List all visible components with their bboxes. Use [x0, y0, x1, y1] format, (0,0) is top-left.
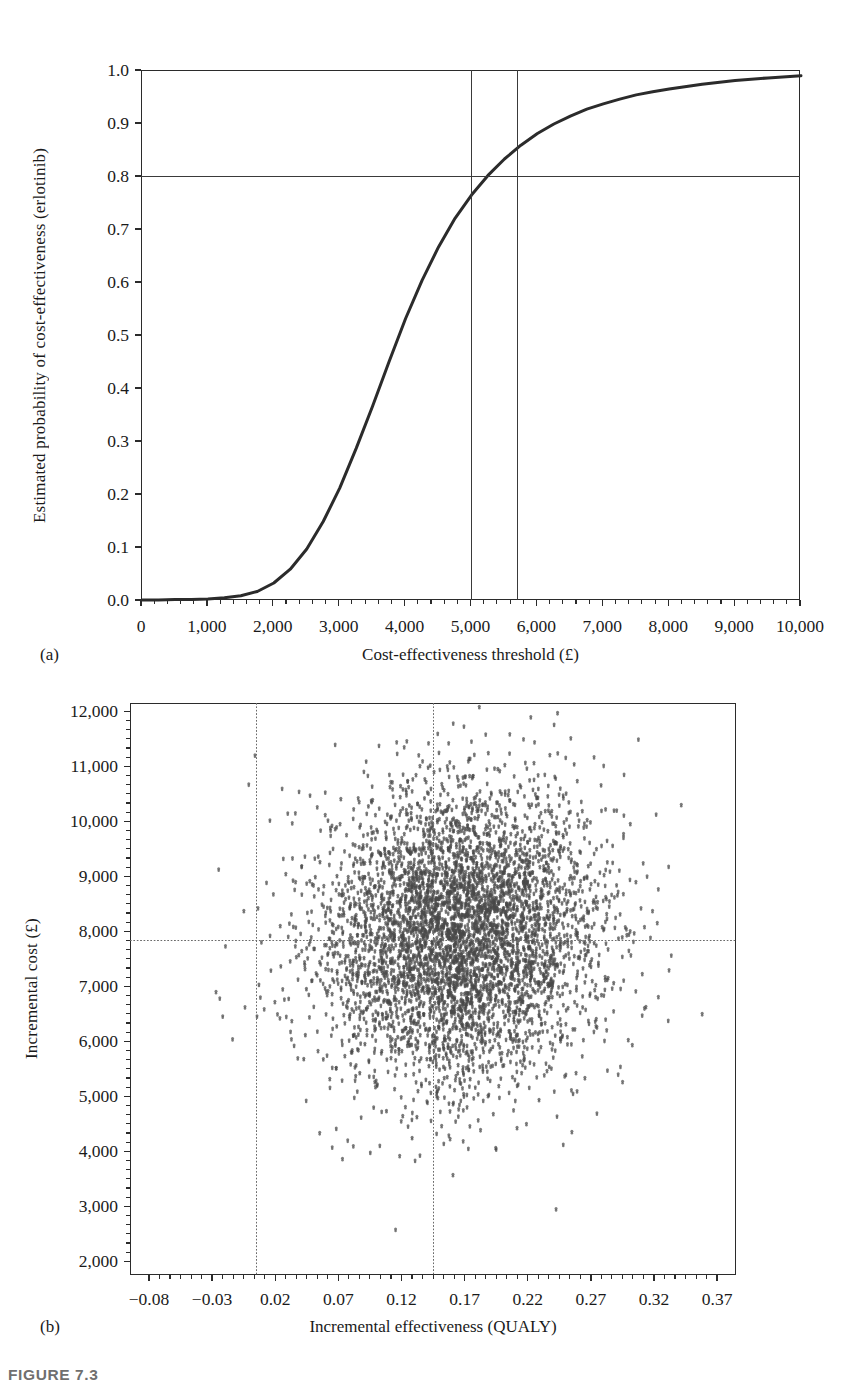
cost-mean-line [130, 940, 736, 941]
panel-b-x-minor-tickmark [317, 1275, 318, 1279]
panel-b-scatter-chart: Incremental cost (£) 2,0003,0004,0005,00… [0, 672, 854, 1332]
panel-a-x-minor-tickmark [496, 600, 497, 604]
panel-b-y-minor-tickmark [126, 1077, 130, 1078]
panel-b-x-minor-tickmark [369, 1275, 370, 1279]
panel-a-x-minor-tickmark [707, 600, 708, 604]
panel-b-x-minor-tickmark [411, 1275, 412, 1279]
panel-b-y-tick: 4,000 [0, 1141, 118, 1162]
panel-b-y-minor-tickmark [126, 1032, 130, 1033]
panel-b-tag: (b) [40, 1317, 60, 1337]
figure-caption: FIGURE 7.3 [8, 1366, 98, 1382]
panel-b-y-tickmark [124, 1151, 130, 1152]
panel-b-y-minor-tickmark [126, 793, 130, 794]
panel-a-x-minor-tickmark [430, 600, 431, 604]
effectiveness-mean-line [433, 703, 434, 1275]
panel-b-x-tickmark [653, 1275, 654, 1281]
panel-b-x-minor-tickmark [696, 1275, 697, 1279]
panel-a-x-minor-tickmark [641, 600, 642, 604]
panel-a-x-tickmark [404, 600, 405, 606]
panel-a-x-minor-tickmark [233, 600, 234, 604]
panel-a-x-minor-tickmark [351, 600, 352, 604]
panel-b-y-minor-tickmark [126, 1087, 130, 1088]
panel-a-x-minor-tickmark [417, 600, 418, 604]
panel-b-y-tickmark [124, 1206, 130, 1207]
panel-b-x-minor-tickmark [201, 1275, 202, 1279]
panel-b-x-axis-label: Incremental effectiveness (QUALY) [130, 1317, 736, 1337]
panel-b-x-minor-tickmark [559, 1275, 560, 1279]
panel-a-x-minor-tickmark [575, 600, 576, 604]
panel-a-x-minor-tickmark [655, 600, 656, 604]
panel-b-x-minor-tickmark [496, 1275, 497, 1279]
panel-b-x-minor-tickmark [601, 1275, 602, 1279]
panel-a-x-tickmark [272, 600, 273, 606]
panel-b-x-tickmark [716, 1275, 717, 1281]
panel-b-x-minor-tickmark [454, 1275, 455, 1279]
panel-a-x-minor-tickmark [549, 600, 550, 604]
effectiveness-lower-line [256, 703, 257, 1275]
panel-b-x-tick: 0.27 [576, 1289, 607, 1310]
panel-b-x-tick: 0.17 [449, 1289, 480, 1310]
panel-b-x-tickmark [148, 1275, 149, 1281]
panel-a-x-minor-tickmark [193, 600, 194, 604]
panel-b-x-minor-tickmark [538, 1275, 539, 1279]
panel-a-x-tickmark [140, 600, 141, 606]
panel-b-y-minor-tickmark [126, 757, 130, 758]
figure-container: Estimated probability of cost-effectiven… [0, 0, 854, 1382]
panel-b-x-tickmark [590, 1275, 591, 1281]
panel-a-x-minor-tickmark [180, 600, 181, 604]
panel-b-x-tick: 0.02 [260, 1289, 291, 1310]
panel-b-y-tick: 5,000 [0, 1086, 118, 1107]
panel-b-y-minor-tickmark [126, 1187, 130, 1188]
panel-b-y-minor-tickmark [126, 1169, 130, 1170]
panel-b-x-tickmark [211, 1275, 212, 1281]
panel-a-y-tickmark [135, 493, 141, 494]
panel-b-y-tick: 11,000 [0, 756, 118, 777]
panel-a-x-tick: 5,000 [451, 616, 490, 637]
panel-a-y-tickmark [135, 122, 141, 123]
panel-b-y-minor-tickmark [126, 747, 130, 748]
panel-a-x-minor-tickmark [154, 600, 155, 604]
panel-b-x-minor-tickmark [306, 1275, 307, 1279]
panel-a-x-minor-tickmark [628, 600, 629, 604]
panel-a-x-tick: 4,000 [385, 616, 424, 637]
panel-b-y-minor-tickmark [126, 867, 130, 868]
panel-b-y-minor-tickmark [126, 1252, 130, 1253]
panel-b-x-minor-tickmark [233, 1275, 234, 1279]
panel-b-y-tickmark [124, 821, 130, 822]
panel-b-y-minor-tickmark [126, 949, 130, 950]
panel-b-y-tick: 7,000 [0, 976, 118, 997]
panel-b-x-minor-tickmark [180, 1275, 181, 1279]
panel-b-x-minor-tickmark [243, 1275, 244, 1279]
panel-a-y-tickmark [135, 281, 141, 282]
panel-b-x-tick: 0.07 [323, 1289, 354, 1310]
panel-b-x-minor-tickmark [569, 1275, 570, 1279]
panel-b-x-tickmark [401, 1275, 402, 1281]
panel-b-x-minor-tickmark [485, 1275, 486, 1279]
panel-a-x-minor-tickmark [285, 600, 286, 604]
panel-a-x-minor-tickmark [220, 600, 221, 604]
panel-b-y-minor-tickmark [126, 1142, 130, 1143]
panel-b-x-tick: 0.37 [702, 1289, 733, 1310]
panel-b-y-minor-tickmark [126, 775, 130, 776]
panel-b-y-minor-tickmark [126, 894, 130, 895]
panel-a-x-tick: 1,000 [187, 616, 226, 637]
panel-b-y-tick: 12,000 [0, 701, 118, 722]
panel-b-y-tick: 8,000 [0, 921, 118, 942]
panel-b-x-minor-tickmark [685, 1275, 686, 1279]
panel-b-y-minor-tickmark [126, 729, 130, 730]
panel-b-y-tickmark [124, 931, 130, 932]
panel-b-x-minor-tickmark [506, 1275, 507, 1279]
panel-b-y-minor-tickmark [126, 885, 130, 886]
panel-b-y-minor-tickmark [126, 802, 130, 803]
panel-a-y-tick: 0.4 [0, 378, 129, 399]
panel-a-x-minor-tickmark [786, 600, 787, 604]
panel-a-y-tick: 0.6 [0, 272, 129, 293]
panel-a-x-minor-tickmark [246, 600, 247, 604]
panel-a-x-minor-tickmark [760, 600, 761, 604]
panel-b-y-tickmark [124, 1261, 130, 1262]
panel-b-x-minor-tickmark [422, 1275, 423, 1279]
panel-a-y-tick: 0.9 [0, 113, 129, 134]
panel-a-y-tick: 0.8 [0, 166, 129, 187]
panel-b-x-tick: 0.12 [386, 1289, 417, 1310]
panel-b-x-minor-tickmark [285, 1275, 286, 1279]
